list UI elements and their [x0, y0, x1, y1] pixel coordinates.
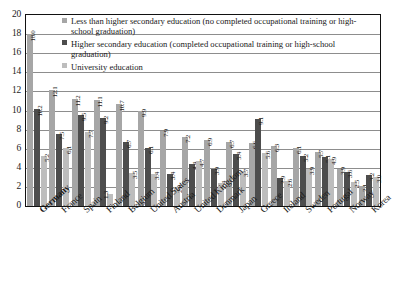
bar-fill: [49, 90, 55, 206]
bar-value-label: 10.7: [119, 100, 126, 111]
bar: 7.7: [85, 132, 91, 206]
bar-fill: [255, 119, 261, 206]
y-axis-tick: 14: [12, 68, 21, 78]
bar-value-label: 11.1: [97, 97, 104, 108]
bar-value-label: 10.2: [37, 105, 44, 116]
bar-fill: [94, 100, 100, 206]
legend-label: Higher secondary education (completed oc…: [71, 39, 374, 60]
legend-label: University education: [71, 62, 374, 72]
bar: 11.1: [94, 100, 100, 206]
bar-value-label: 6.1: [296, 146, 303, 154]
bar-fill: [34, 109, 40, 206]
bar-group: 18.010.25.2: [26, 15, 48, 206]
y-axis-tick: 16: [12, 48, 21, 58]
bar-value-label: 12.1: [52, 87, 59, 98]
bar-value-label: 9.5: [81, 113, 88, 121]
y-axis-tick: 4: [16, 163, 21, 173]
x-axis: GermanyFranceSpainFinlandBelgiumUnited S…: [26, 208, 380, 288]
y-axis-tick: 20: [12, 10, 21, 20]
bar-value-label: 1.3: [103, 191, 110, 199]
legend-swatch-icon: [62, 18, 67, 23]
y-axis-tick: 18: [12, 29, 21, 39]
bar-value-label: 5.2: [303, 154, 310, 162]
bar: 18.0: [27, 34, 33, 206]
bar-value-label: 6.9: [207, 138, 214, 146]
y-axis-tick: 0: [16, 201, 21, 211]
y-axis-tick: 12: [12, 87, 21, 97]
legend-swatch-icon: [62, 40, 67, 45]
y-axis-tick: 2: [16, 182, 21, 192]
bar-value-label: 9.1: [258, 117, 265, 125]
bar: 10.2: [34, 109, 40, 206]
bar-value-label: 3.4: [170, 172, 177, 180]
y-axis: 20181614121086420: [0, 14, 23, 207]
bar-fill: [27, 34, 33, 206]
bar-value-label: 3.0: [376, 175, 383, 183]
bar-value-label: 9.2: [103, 116, 110, 124]
bar-value-label: 7.5: [59, 132, 66, 140]
chart-legend: Less than higher secondary education (no…: [62, 16, 374, 74]
y-axis-tick: 6: [16, 144, 21, 154]
bar-fill: [85, 132, 91, 206]
bar-value-label: 11.2: [75, 96, 82, 107]
bar-value-label: 3.9: [214, 167, 221, 175]
bar-value-label: 7.9: [163, 129, 170, 137]
bar: 9.1: [255, 119, 261, 206]
bar-value-label: 6.7: [126, 140, 133, 148]
y-axis-tick: 8: [16, 125, 21, 135]
bar: 12.1: [49, 90, 55, 206]
bar-value-label: 6.3: [274, 144, 281, 152]
legend-swatch-icon: [62, 63, 67, 68]
bar-value-label: 6.7: [229, 140, 236, 148]
bar-value-label: 7.2: [185, 135, 192, 143]
bar-value-label: 18.0: [30, 31, 37, 42]
bar-value-label: 9.9: [141, 110, 148, 118]
bar-value-label: 5.4: [236, 153, 243, 161]
bar-value-label: 3.6: [347, 170, 354, 178]
y-axis-tick: 10: [12, 106, 21, 116]
bar-value-label: 6.1: [148, 146, 155, 154]
legend-item-less-than-higher-secondary: Less than higher secondary education (no…: [62, 16, 374, 37]
legend-label: Less than higher secondary education (no…: [71, 16, 374, 37]
legend-item-university: University education: [62, 62, 374, 72]
legend-item-higher-secondary: Higher secondary education (completed oc…: [62, 39, 374, 60]
